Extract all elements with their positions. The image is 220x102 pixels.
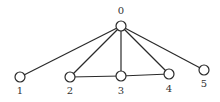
node-label-0: 0 (118, 5, 124, 16)
node-label-4: 4 (166, 83, 172, 94)
edge-0-1 (20, 26, 121, 77)
node-label-5: 5 (201, 78, 207, 89)
edge-0-2 (70, 26, 121, 77)
node-3 (116, 71, 126, 81)
labels-group: 012345 (17, 5, 207, 96)
edge-2-3 (70, 76, 121, 77)
node-1 (15, 72, 25, 82)
node-label-3: 3 (118, 85, 124, 96)
node-0 (116, 21, 126, 31)
graph-diagram: 012345 (0, 0, 220, 102)
node-2 (65, 72, 75, 82)
node-label-1: 1 (17, 85, 23, 96)
edge-0-4 (121, 26, 169, 74)
node-label-2: 2 (67, 85, 73, 96)
edges-group (20, 26, 204, 77)
node-5 (199, 65, 209, 75)
edge-3-4 (121, 74, 169, 76)
node-4 (164, 69, 174, 79)
edge-0-5 (121, 26, 204, 70)
